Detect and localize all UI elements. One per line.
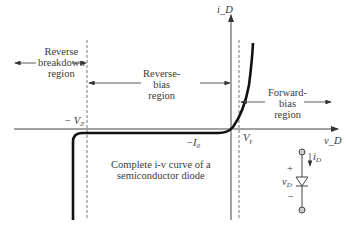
vgamma-label: Vγ: [243, 132, 252, 147]
reverse-breakdown-label: Reverse breakdown region: [38, 46, 85, 79]
curve-caption: Complete i-v curve of a semiconductor di…: [111, 159, 211, 181]
y-axis-label: i_D: [217, 4, 233, 15]
vz-label: − VZ: [64, 115, 84, 130]
terminal-top: [299, 149, 305, 155]
forward-bias-label: Forward- bias region: [268, 87, 307, 120]
i0-label: −I0: [186, 137, 200, 152]
x-axis-label: v_D: [324, 135, 342, 146]
diode-circuit: [296, 149, 310, 213]
circuit-current-label: iD: [313, 151, 321, 166]
circuit-voltage-label: vD: [282, 176, 292, 191]
circuit-plus-label: +: [287, 163, 293, 174]
terminal-bottom: [299, 207, 305, 213]
diode-symbol: [296, 177, 308, 186]
circuit-minus-label: −: [288, 191, 294, 202]
reverse-bias-label: Reverse- bias region: [143, 68, 180, 101]
